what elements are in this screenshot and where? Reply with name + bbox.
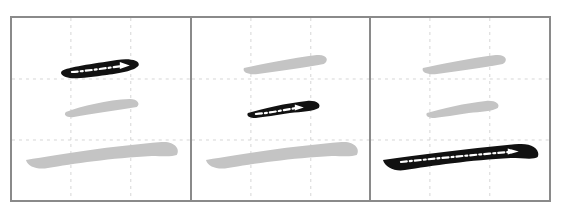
stroke-order-diagram: Stroke 1: top horizontal (横) Stroke 2: m… bbox=[10, 16, 551, 202]
ghost-stroke-top bbox=[243, 55, 326, 74]
step-cell-2: Stroke 2: middle horizontal (横) bbox=[190, 18, 370, 200]
ghost-stroke-middle bbox=[65, 99, 139, 117]
ghost-stroke-bottom bbox=[206, 142, 358, 169]
character-grid bbox=[192, 18, 370, 200]
ghost-stroke-middle bbox=[427, 101, 499, 118]
ghost-stroke-top bbox=[423, 55, 506, 74]
step-cell-1: Stroke 1: top horizontal (横) bbox=[12, 18, 190, 200]
ghost-stroke-bottom bbox=[26, 142, 178, 169]
character-grid bbox=[12, 18, 190, 200]
step-cell-3: Stroke 3: bottom horizontal (横) bbox=[369, 18, 549, 200]
character-grid bbox=[371, 18, 549, 200]
